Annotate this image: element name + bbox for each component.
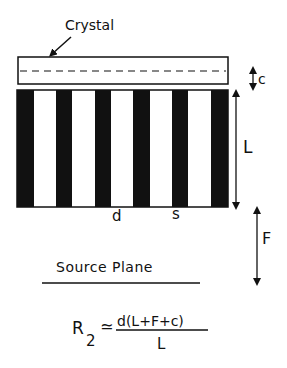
c-label: c: [258, 71, 266, 87]
s-label: s: [172, 205, 180, 223]
source-plane-label: Source Plane: [56, 259, 153, 275]
diagram-canvas: Crystal c L d s F Source Plane R 2 ≃ d(L…: [0, 0, 287, 368]
d-label: d: [112, 207, 122, 225]
grating-bar: [133, 90, 150, 207]
formula-lhs: R: [72, 318, 84, 338]
formula-subscript: 2: [86, 332, 96, 350]
grating-bar: [172, 90, 188, 207]
grating-bar: [211, 90, 228, 207]
grating: [17, 90, 228, 207]
formula-denominator: L: [157, 335, 166, 353]
crystal-label: Crystal: [65, 17, 114, 33]
formula: R 2 ≃ d(L+F+c) L: [72, 313, 208, 353]
grating-bar: [56, 90, 72, 207]
formula-approx: ≃: [100, 317, 113, 336]
crystal-pointer-arrow: [52, 37, 71, 54]
f-label: F: [262, 229, 271, 248]
formula-numerator: d(L+F+c): [117, 313, 184, 329]
l-label: L: [243, 137, 253, 157]
grating-bar: [17, 90, 34, 207]
grating-bar: [95, 90, 111, 207]
grating-frame: [17, 90, 228, 207]
